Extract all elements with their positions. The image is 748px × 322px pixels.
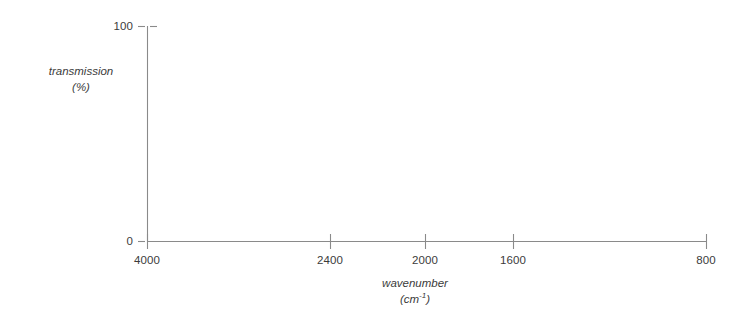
- x-tick-label-1600: 1600: [500, 254, 526, 266]
- ir-spectrum-figure: 100 0 4000 2400 2000 1600 800 wavenumber…: [0, 0, 748, 322]
- x-axis-units-base: (cm: [400, 293, 419, 305]
- x-axis-title-text: wavenumber: [382, 277, 448, 289]
- y-tick-label-0: 0: [101, 235, 133, 247]
- x-tick-label-800: 800: [696, 254, 716, 266]
- y-axis-units: (%): [49, 80, 114, 96]
- y-axis-title-text: transmission: [49, 65, 114, 77]
- x-axis-units: (cm-1): [382, 292, 448, 308]
- x-axis-title: wavenumber (cm-1): [382, 276, 448, 307]
- x-tick-label-2400: 2400: [317, 254, 343, 266]
- y-tick-label-100: 100: [101, 20, 133, 32]
- x-tick-label-4000: 4000: [134, 254, 160, 266]
- y-axis-title: transmission (%): [49, 64, 114, 95]
- plot-area: [0, 0, 748, 322]
- x-tick-label-2000: 2000: [412, 254, 438, 266]
- x-axis-units-close: ): [426, 293, 430, 305]
